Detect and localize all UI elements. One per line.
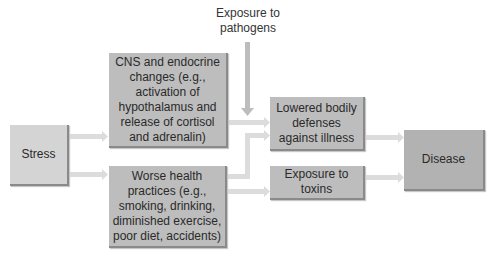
toxins-node: Exposure to toxins — [270, 166, 365, 200]
cns-node: CNS and endocrine changes (e.g., activat… — [109, 53, 228, 148]
stress-node: Stress — [10, 125, 69, 186]
toxins-label: Exposure to toxins — [284, 167, 349, 197]
lowered-defenses-label: Lowered bodily defenses against illness — [276, 101, 357, 146]
disease-node: Disease — [404, 130, 485, 191]
arrows-layer — [0, 0, 493, 256]
worse-health-label: Worse health practices (e.g., smoking, d… — [112, 169, 222, 244]
worse-health-node: Worse health practices (e.g., smoking, d… — [109, 166, 227, 248]
stress-label: Stress — [21, 147, 55, 162]
lowered-defenses-node: Lowered bodily defenses against illness — [270, 97, 365, 151]
pathogens-label: Exposure to pathogens — [200, 6, 296, 36]
disease-label: Disease — [422, 152, 465, 167]
cns-label: CNS and endocrine changes (e.g., activat… — [113, 55, 222, 145]
